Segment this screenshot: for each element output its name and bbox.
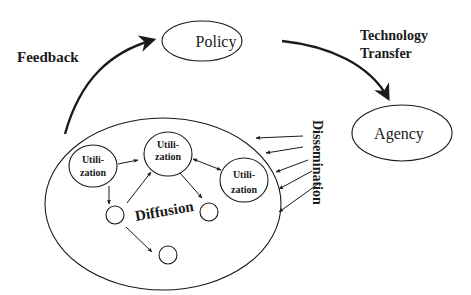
policy-label: Policy [196, 33, 237, 51]
utilization-3-label-line2: zation [231, 184, 258, 195]
transfer-label: Transfer [360, 46, 412, 61]
diffusion-label: Diffusion [134, 198, 196, 224]
empty-node-2 [200, 203, 218, 221]
technology-label: Technology [360, 28, 428, 43]
utilization-node-3 [220, 158, 268, 202]
utilization-3-label-line1: Utili- [233, 169, 255, 180]
dissemination-arrows [256, 136, 318, 212]
agency-label: Agency [374, 125, 424, 143]
utilization-1-label-line1: Utili- [82, 154, 104, 165]
dissemination-label: Dissemination [310, 120, 325, 205]
feedback-label: Feedback [17, 49, 79, 65]
utilization-1-label-line2: zation [80, 167, 107, 178]
diagram-canvas: Feedback Policy Technology Transfer Agen… [0, 0, 471, 295]
utilization-node-1 [69, 145, 117, 187]
utilization-2-label-line1: Utili- [157, 139, 179, 150]
empty-node-1 [106, 206, 124, 224]
utilization-2-label-line2: zation [155, 151, 182, 162]
empty-node-3 [159, 246, 177, 264]
